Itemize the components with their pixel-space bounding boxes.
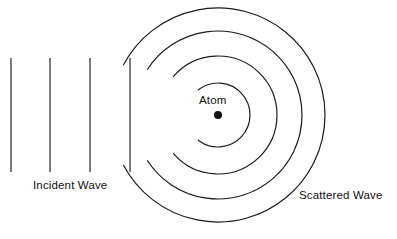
scattered-wave-arc-1 bbox=[198, 83, 250, 147]
diagram-canvas bbox=[0, 0, 397, 239]
incident-wavefront-group bbox=[11, 58, 130, 172]
wave-scattering-diagram: Atom Incident Wave Scattered Wave bbox=[0, 0, 397, 239]
scattered-wave-label: Scattered Wave bbox=[299, 190, 383, 202]
scattered-wave-arc-group bbox=[124, 8, 325, 222]
scattered-wave-arc-2 bbox=[173, 56, 277, 174]
scattered-wave-arc-4 bbox=[124, 8, 325, 222]
atom-dot bbox=[214, 111, 222, 119]
incident-wave-label: Incident Wave bbox=[33, 180, 107, 192]
atom-label: Atom bbox=[199, 95, 226, 107]
